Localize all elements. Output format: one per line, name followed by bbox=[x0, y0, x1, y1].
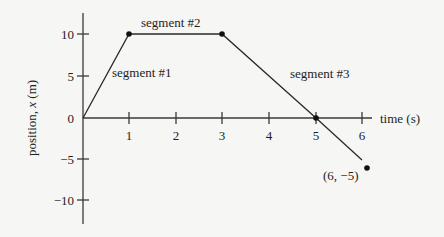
x-tick-label: 6 bbox=[359, 128, 366, 143]
y-tick-label: −10 bbox=[54, 193, 74, 208]
x-tick-label: 4 bbox=[266, 128, 273, 143]
y-axis-title: position, x (m) bbox=[24, 80, 39, 156]
y-tick-label: −5 bbox=[60, 152, 74, 167]
segment-3-label: segment #3 bbox=[290, 66, 350, 81]
point-marker bbox=[219, 31, 225, 37]
x-tick-label: 3 bbox=[219, 128, 226, 143]
data-markers bbox=[126, 31, 370, 171]
point-marker bbox=[313, 115, 319, 121]
x-axis-title: time (s) bbox=[380, 111, 420, 126]
position-time-chart: 10 5 0 −5 −10 1 2 3 4 5 6 time (s) posit… bbox=[0, 0, 444, 237]
y-tick-label: 5 bbox=[68, 69, 75, 84]
point-marker bbox=[364, 165, 370, 171]
endpoint-label: (6, −5) bbox=[323, 168, 359, 183]
x-tick-label: 2 bbox=[173, 128, 180, 143]
point-marker bbox=[126, 31, 132, 37]
y-tick-label: 10 bbox=[61, 27, 74, 42]
segment-1-label: segment #1 bbox=[112, 65, 172, 80]
x-tick-label: 5 bbox=[313, 128, 320, 143]
y-axis-title-prefix: position, bbox=[24, 108, 39, 156]
segment-2-label: segment #2 bbox=[141, 15, 201, 30]
y-tick-label: 0 bbox=[68, 111, 75, 126]
x-tick-label: 1 bbox=[126, 128, 133, 143]
y-tick-labels: 10 5 0 −5 −10 bbox=[54, 27, 74, 208]
axes bbox=[77, 13, 372, 224]
y-axis-title-suffix: (m) bbox=[24, 80, 39, 102]
